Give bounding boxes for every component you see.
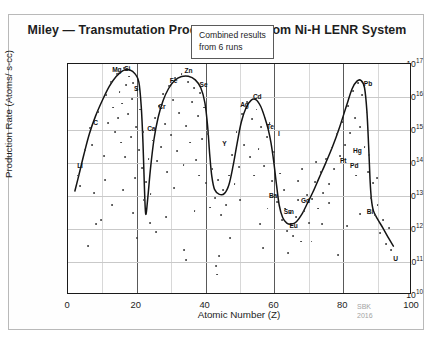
- annotation-line-2: from 6 runs: [199, 42, 266, 54]
- data-point: [194, 210, 196, 212]
- data-point: [336, 133, 338, 135]
- data-point: [84, 150, 86, 152]
- element-label-pt: Pt: [340, 157, 346, 164]
- element-label-ca: Ca: [147, 125, 155, 132]
- data-point: [110, 81, 112, 83]
- data-point: [311, 241, 313, 243]
- element-label-eu: Eu: [290, 222, 298, 229]
- data-point: [166, 171, 168, 173]
- y-axis-label: Production Rate (Atoms/ s-cc): [3, 50, 14, 178]
- data-point: [249, 156, 251, 158]
- data-point: [95, 223, 97, 225]
- data-point: [172, 99, 174, 101]
- data-point: [251, 118, 253, 120]
- data-point: [87, 245, 89, 247]
- data-point: [91, 144, 93, 146]
- data-point: [390, 249, 392, 251]
- data-point: [217, 179, 219, 181]
- data-point: [295, 216, 297, 218]
- data-point: [368, 154, 370, 156]
- data-point: [215, 265, 217, 267]
- x-tick-label-80: 80: [337, 299, 347, 310]
- data-point: [107, 122, 109, 124]
- data-point: [328, 183, 330, 185]
- data-point: [79, 185, 81, 187]
- data-point: [271, 180, 273, 182]
- element-label-cr: Cr: [158, 103, 165, 110]
- data-point: [342, 121, 344, 123]
- data-point: [229, 237, 231, 239]
- x-tick-label-40: 40: [199, 299, 209, 310]
- data-point: [203, 107, 205, 109]
- x-tick-label-0: 0: [64, 299, 69, 310]
- data-point: [298, 199, 300, 201]
- data-point: [346, 225, 348, 227]
- x-tick-label-20: 20: [131, 299, 141, 310]
- data-point: [104, 179, 106, 181]
- data-point: [379, 232, 381, 234]
- data-point: [263, 165, 265, 167]
- data-point: [117, 117, 119, 119]
- data-point: [150, 193, 152, 195]
- data-point: [93, 192, 95, 194]
- data-point: [333, 168, 335, 170]
- data-point: [382, 219, 384, 221]
- data-point: [317, 208, 319, 210]
- data-point: [156, 160, 158, 162]
- data-point: [132, 212, 134, 214]
- data-point: [154, 117, 156, 119]
- data-point: [141, 167, 143, 169]
- data-point: [138, 149, 140, 151]
- data-point: [331, 147, 333, 149]
- data-point: [374, 214, 376, 216]
- element-label-gd: Gd: [301, 196, 310, 203]
- data-point: [97, 111, 99, 113]
- data-point: [183, 249, 185, 251]
- element-label-y: Y: [222, 139, 226, 146]
- data-point: [239, 199, 241, 201]
- data-point: [179, 112, 181, 114]
- x-tick-label-100: 100: [403, 299, 419, 310]
- data-point: [260, 126, 262, 128]
- figure-frame: Miley — Transmutation Product Yields Fro…: [8, 14, 424, 330]
- data-point: [367, 171, 369, 173]
- data-point: [114, 131, 116, 133]
- data-point: [212, 168, 214, 170]
- data-point: [303, 210, 305, 212]
- data-point: [225, 204, 227, 206]
- data-point: [145, 181, 147, 183]
- data-point: [347, 105, 349, 107]
- data-point: [301, 168, 303, 170]
- data-point: [262, 247, 264, 249]
- data-point: [135, 126, 137, 128]
- element-label-se: Se: [200, 81, 208, 88]
- watermark-author: SBK: [357, 303, 373, 312]
- data-point: [359, 213, 361, 215]
- data-point: [105, 94, 107, 96]
- data-point: [111, 204, 113, 206]
- data-point: [148, 158, 150, 160]
- data-point: [311, 198, 313, 200]
- data-point: [170, 134, 172, 136]
- data-point: [322, 192, 324, 194]
- data-point: [287, 230, 289, 232]
- data-point: [198, 175, 200, 177]
- data-point: [231, 154, 233, 156]
- data-point: [220, 214, 222, 216]
- data-point: [139, 109, 141, 111]
- data-point: [183, 164, 185, 166]
- data-point: [152, 140, 154, 142]
- data-point: [136, 237, 138, 239]
- watermark: SBK 2016: [357, 303, 373, 321]
- data-point: [77, 175, 79, 177]
- data-point: [228, 175, 230, 177]
- data-point: [116, 73, 118, 75]
- data-point: [273, 151, 275, 153]
- data-point: [173, 187, 175, 189]
- data-point: [372, 183, 374, 185]
- data-point: [287, 252, 289, 254]
- element-label-ba: Ba: [269, 192, 277, 199]
- data-point: [197, 115, 199, 117]
- data-point: [164, 123, 166, 125]
- annotation-box: Combined results from 6 runs: [191, 25, 274, 59]
